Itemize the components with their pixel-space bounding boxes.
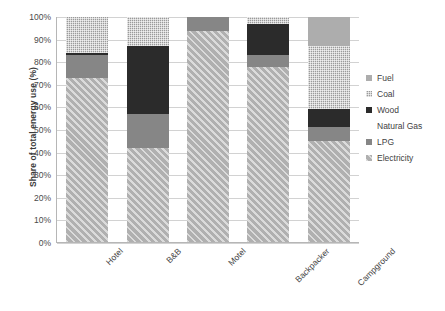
bar-segment-lpg[interactable] — [308, 127, 350, 141]
bar-segment-electricity[interactable] — [66, 78, 108, 242]
legend-label: Fuel — [377, 74, 394, 83]
y-tick-label: 0% — [39, 238, 51, 248]
bar-segment-wood[interactable] — [308, 109, 350, 127]
legend-item-electricity[interactable]: Electricity — [366, 150, 442, 166]
plot-area — [56, 17, 359, 243]
y-tick-label: 10% — [34, 215, 51, 225]
legend-label: Wood — [377, 106, 399, 115]
bar-segment-coal[interactable] — [308, 46, 350, 109]
x-tick-label-hotel: Hotel — [104, 246, 125, 267]
x-tick-label-motel: Motel — [226, 246, 248, 268]
bar-segment-fuel[interactable] — [308, 17, 350, 46]
x-tick-label-backpacker: Backpacker — [293, 246, 331, 284]
y-tick-label: 50% — [34, 125, 51, 135]
x-axis-tick-labels: HotelB&BMotelBackpackerCampground — [56, 246, 359, 308]
bar-segment-lpg[interactable] — [187, 17, 229, 31]
legend-label: LPG — [377, 138, 394, 147]
y-tick-label: 20% — [34, 193, 51, 203]
bar-segment-lpg[interactable] — [127, 114, 169, 148]
y-tick-label: 70% — [34, 80, 51, 90]
legend-item-fuel[interactable]: Fuel — [366, 70, 442, 86]
legend-item-natural-gas[interactable]: Natural Gas — [366, 118, 442, 134]
bar-hotel[interactable] — [66, 17, 108, 242]
legend-item-coal[interactable]: Coal — [366, 86, 442, 102]
legend-item-wood[interactable]: Wood — [366, 102, 442, 118]
bar-segment-electricity[interactable] — [247, 67, 289, 243]
x-tick-label-b-b: B&B — [164, 246, 183, 265]
bar-segment-electricity[interactable] — [127, 148, 169, 243]
bar-motel[interactable] — [187, 17, 229, 242]
bar-segment-coal[interactable] — [127, 17, 169, 46]
y-tick-label: 100% — [29, 12, 51, 22]
chart-legend: FuelCoalWoodNatural GasLPGElectricity — [366, 70, 442, 166]
bar-segment-lpg[interactable] — [247, 55, 289, 66]
y-axis-tick-labels: 0%10%20%30%40%50%60%70%80%90%100% — [0, 0, 55, 311]
legend-label: Natural Gas — [377, 122, 422, 131]
legend-label: Electricity — [377, 154, 413, 163]
bar-segment-coal[interactable] — [247, 17, 289, 24]
legend-swatch-fuel-icon — [366, 75, 372, 81]
legend-swatch-wood-icon — [366, 107, 372, 113]
y-tick-label: 40% — [34, 148, 51, 158]
legend-item-lpg[interactable]: LPG — [366, 134, 442, 150]
y-tick-label: 60% — [34, 102, 51, 112]
bar-segment-lpg[interactable] — [66, 55, 108, 78]
y-tick-label: 80% — [34, 57, 51, 67]
legend-label: Coal — [377, 90, 394, 99]
y-tick-label: 90% — [34, 35, 51, 45]
legend-swatch-coal-icon — [366, 91, 372, 97]
bar-segment-electricity[interactable] — [308, 141, 350, 242]
legend-swatch-electricity-icon — [366, 155, 372, 161]
bar-segment-wood[interactable] — [247, 24, 289, 56]
bar-b-b[interactable] — [127, 17, 169, 242]
bar-segment-wood[interactable] — [127, 46, 169, 114]
bar-segment-coal[interactable] — [66, 17, 108, 53]
bar-backpacker[interactable] — [247, 17, 289, 242]
bar-group — [57, 17, 359, 242]
stacked-bar-chart: Share of total energy use (%) 0%10%20%30… — [0, 0, 445, 311]
x-tick-label-campground: Campground — [355, 246, 397, 288]
legend-swatch-natural-gas-icon — [366, 123, 372, 129]
y-tick-label: 30% — [34, 170, 51, 180]
legend-swatch-lpg-icon — [366, 139, 372, 145]
bar-campground[interactable] — [308, 17, 350, 242]
bar-segment-electricity[interactable] — [187, 31, 229, 243]
gridline — [57, 243, 359, 244]
